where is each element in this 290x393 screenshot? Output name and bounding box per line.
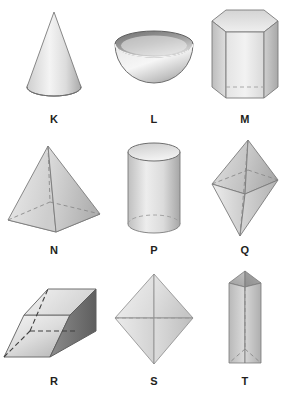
shape-label: T <box>242 376 249 393</box>
cone-illustration <box>0 0 108 114</box>
shape-cell-octahedron-diamond: S <box>108 262 200 393</box>
shapes-grid: K L <box>0 0 290 393</box>
shape-cell-hexagonal-prism: M <box>200 0 290 131</box>
octahedron-diamond-illustration <box>108 262 200 376</box>
parallelepiped-illustration <box>0 262 108 376</box>
shape-label: N <box>50 245 58 262</box>
vertical-triangular-prism-illustration <box>200 262 290 376</box>
shape-cell-cone: K <box>0 0 108 131</box>
square-pyramid-illustration <box>0 131 108 245</box>
shape-label: S <box>150 376 158 393</box>
shape-label: Q <box>241 245 250 262</box>
shape-label: R <box>50 376 58 393</box>
shape-label: P <box>150 245 158 262</box>
shape-label: L <box>151 114 158 131</box>
shape-cell-square-pyramid: N <box>0 131 108 262</box>
shape-label: K <box>50 114 58 131</box>
shape-cell-vertical-triangular-prism: T <box>200 262 290 393</box>
shape-cell-hemisphere-bowl: L <box>108 0 200 131</box>
hexagonal-prism-illustration <box>200 0 290 114</box>
shape-cell-parallelepiped: R <box>0 262 108 393</box>
hemisphere-bowl-illustration <box>108 0 200 114</box>
shape-label: M <box>240 114 249 131</box>
shape-cell-elongated-octahedron: Q <box>200 131 290 262</box>
elongated-octahedron-illustration <box>200 131 290 245</box>
cylinder-illustration <box>108 131 200 245</box>
shape-cell-cylinder: P <box>108 131 200 262</box>
